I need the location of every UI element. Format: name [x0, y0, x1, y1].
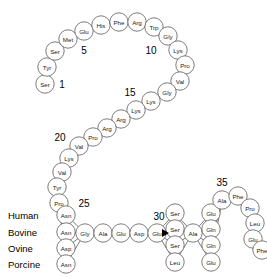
residue-arg-8[interactable]: Arg — [128, 13, 146, 31]
residue-center-ala-0[interactable]: Ala — [184, 224, 202, 242]
residue-circle — [253, 241, 267, 259]
residue-tyr-2[interactable]: Tyr — [38, 58, 56, 76]
residue-circle — [166, 253, 184, 271]
position-number-20: 20 — [54, 132, 66, 143]
residue-asp-29[interactable]: Asp — [130, 224, 148, 242]
residue-circle — [184, 224, 202, 242]
residue-circle — [48, 178, 66, 196]
position-number-15: 15 — [124, 87, 136, 98]
residue-circle — [128, 13, 146, 31]
variant3-residue-gln-2[interactable]: Gln — [202, 236, 220, 254]
residue-circle — [59, 30, 77, 48]
residue-his-6[interactable]: His — [92, 16, 110, 34]
peptide-diagram-canvas: SerTyrSerMetGluHisPheArgTrpGlyLysProValG… — [0, 0, 267, 278]
residue-phe-7[interactable]: Phe — [110, 13, 128, 31]
species-label-bovine: Bovine — [8, 227, 37, 238]
residue-glu-5[interactable]: Glu — [75, 22, 93, 40]
residue-pro-12[interactable]: Pro — [176, 56, 194, 74]
residue-circle — [57, 255, 75, 273]
residue-leu-38[interactable]: Leu — [246, 214, 264, 232]
residue-met-4[interactable]: Met — [59, 30, 77, 48]
residue-circle — [176, 56, 194, 74]
residue-circle — [36, 75, 54, 93]
position-number-35: 35 — [216, 177, 228, 188]
residue-gly-26[interactable]: Gly — [76, 224, 94, 242]
position-number-5: 5 — [81, 45, 87, 56]
residue-glu-28[interactable]: Glu — [112, 224, 130, 242]
residue-circle — [38, 58, 56, 76]
position-numbers-layer: 15101520352530 — [54, 45, 228, 222]
residue-circle — [110, 13, 128, 31]
residue-circle — [202, 236, 220, 254]
residue-circle — [158, 83, 176, 101]
residue-ser-1[interactable]: Ser — [36, 75, 54, 93]
residue-circle — [202, 253, 220, 271]
variant-residue-25-asn-0[interactable]: Asn — [57, 206, 75, 224]
position-number-30: 30 — [153, 211, 165, 222]
position-number-10: 10 — [145, 45, 157, 56]
residue-circle — [246, 214, 264, 232]
residue-tyr-23[interactable]: Tyr — [48, 178, 66, 196]
species-labels-layer: HumanBovineOvinePorcine — [8, 210, 40, 270]
residue-circle — [130, 224, 148, 242]
peptide-sequence-diagram: SerTyrSerMetGluHisPheArgTrpGlyLysProValG… — [0, 0, 267, 278]
variant-residue-25-asn-3[interactable]: Asn — [57, 255, 75, 273]
residue-circle — [213, 191, 231, 209]
variant2-residue-ser-2[interactable]: Ser — [166, 236, 184, 254]
residue-ala-35[interactable]: Ala — [213, 191, 231, 209]
residue-circle — [166, 236, 184, 254]
residue-gly-14[interactable]: Gly — [158, 83, 176, 101]
residue-ala-27[interactable]: Ala — [94, 224, 112, 242]
species-label-ovine: Ovine — [8, 243, 33, 254]
position-number-1: 1 — [59, 79, 65, 90]
variant2-residue-leu-3[interactable]: Leu — [166, 253, 184, 271]
residue-phe-40[interactable]: Phe — [253, 241, 267, 259]
residue-circle — [112, 224, 130, 242]
residue-circle — [92, 16, 110, 34]
residue-circle — [75, 22, 93, 40]
species-label-porcine: Porcine — [8, 259, 40, 270]
residue-circle — [57, 206, 75, 224]
residue-circle — [76, 224, 94, 242]
position-number-25: 25 — [78, 198, 90, 209]
residue-circle — [94, 224, 112, 242]
variant3-residue-glu-3[interactable]: Glu — [202, 253, 220, 271]
species-label-human: Human — [8, 210, 39, 221]
